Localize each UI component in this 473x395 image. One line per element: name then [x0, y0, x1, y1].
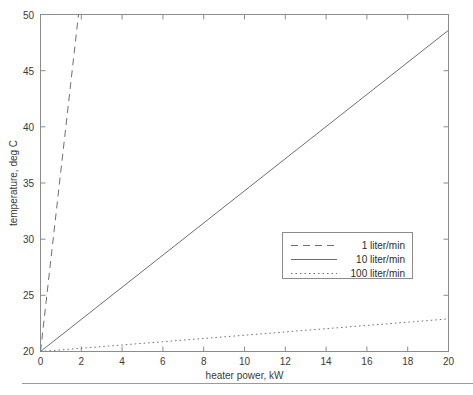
y-axis-title: temperature, deg C: [8, 140, 19, 226]
x-tick-label: 0: [38, 356, 44, 367]
x-tick-label: 12: [280, 356, 292, 367]
x-tick-labels: 0 2 4 6 8 10 12 14 16 18 20: [38, 356, 455, 367]
legend-label-10-liter-min: 10 liter/min: [356, 254, 405, 265]
x-tick-label: 2: [79, 356, 85, 367]
y-tick-label: 45: [23, 66, 35, 77]
y-tick-label: 25: [23, 290, 35, 301]
x-tick-label: 8: [201, 356, 207, 367]
series-group: [41, 15, 449, 352]
x-axis-title: heater power, kW: [206, 370, 284, 381]
series-line-10-liter-min: [41, 30, 449, 351]
plot-frame: [41, 15, 449, 352]
x-tick-label: 4: [119, 356, 125, 367]
x-tick-marks-bottom: [41, 347, 449, 352]
y-tick-marks-right: [444, 15, 449, 352]
y-tick-labels: 20 25 30 35 40 45 50: [23, 10, 35, 358]
figure-container: 20 25 30 35 40 45 50 0 2 4 6 8 10 12 14 …: [0, 0, 473, 395]
x-tick-label: 18: [402, 356, 414, 367]
y-tick-label: 50: [23, 10, 35, 21]
y-tick-marks-left: [41, 15, 46, 352]
x-tick-marks-top: [41, 15, 449, 20]
x-tick-label: 10: [239, 356, 251, 367]
legend-label-1-liter-min: 1 liter/min: [362, 240, 405, 251]
legend[interactable]: 1 liter/min 10 liter/min 100 liter/min: [283, 233, 413, 280]
series-line-1-liter-min: [41, 15, 79, 352]
y-tick-label: 40: [23, 122, 35, 133]
x-tick-label: 20: [443, 356, 455, 367]
x-tick-label: 14: [321, 356, 333, 367]
chart-canvas: 20 25 30 35 40 45 50 0 2 4 6 8 10 12 14 …: [0, 0, 473, 395]
y-tick-label: 35: [23, 178, 35, 189]
x-tick-label: 16: [361, 356, 373, 367]
x-tick-label: 6: [160, 356, 166, 367]
legend-label-100-liter-min: 100 liter/min: [351, 268, 405, 279]
y-tick-label: 20: [23, 346, 35, 357]
y-tick-label: 30: [23, 234, 35, 245]
